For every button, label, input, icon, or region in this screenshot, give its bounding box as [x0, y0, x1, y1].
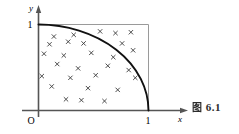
- scatter-point: [82, 42, 86, 46]
- figure-caption-prefix: 图: [192, 99, 203, 114]
- y-axis: [36, 5, 41, 117]
- scatter-point: [106, 64, 110, 68]
- scatter-point: [114, 31, 118, 35]
- scatter-point: [86, 86, 90, 90]
- scatter-point: [129, 30, 133, 34]
- scatter-point: [98, 29, 102, 33]
- scatter-point: [48, 42, 52, 46]
- scatter-point: [50, 85, 54, 89]
- scatter-point: [116, 88, 120, 92]
- scatter-point: [120, 42, 124, 46]
- scatter-point: [72, 33, 76, 37]
- scatter-point: [133, 76, 137, 80]
- scatter-point: [52, 35, 56, 39]
- scatter-point: [127, 68, 131, 72]
- scatter-point: [89, 51, 93, 55]
- scatter-point: [62, 54, 66, 58]
- scatter-point: [69, 76, 73, 80]
- scatter-point: [64, 97, 68, 101]
- x-axis: [22, 108, 188, 113]
- scatter-point: [66, 40, 70, 44]
- scatter-point: [76, 66, 80, 70]
- scatter-points-layer: [40, 29, 137, 102]
- scatter-point: [80, 98, 84, 102]
- scatter-point: [42, 52, 46, 56]
- x-axis-arrowhead: [180, 108, 188, 113]
- figure-caption: 图 6.1: [192, 99, 221, 114]
- scatter-point: [103, 99, 107, 103]
- x-axis-label: x: [177, 114, 182, 124]
- figure-container: y x O 1 1 图 6.1: [0, 0, 239, 134]
- y-tick-label-1: 1: [28, 19, 33, 30]
- y-axis-label: y: [28, 3, 33, 13]
- scatter-point: [111, 55, 115, 59]
- scatter-point: [40, 74, 44, 78]
- x-tick-label-1: 1: [146, 115, 151, 126]
- scatter-point: [131, 48, 135, 52]
- scatter-point: [55, 62, 59, 66]
- origin-label: O: [27, 115, 34, 126]
- figure-caption-number: 6.1: [206, 101, 221, 113]
- y-axis-arrowhead: [36, 5, 41, 13]
- scatter-point: [94, 73, 98, 77]
